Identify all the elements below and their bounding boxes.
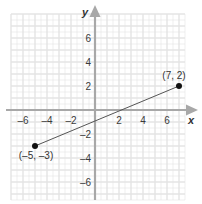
y-tick-label: 2	[85, 81, 91, 92]
x-tick-labels: –6–4–2246	[17, 115, 170, 126]
point-b-label: (7, 2)	[162, 70, 185, 81]
y-tick-label: –6	[80, 177, 92, 188]
x-tick-label: –6	[17, 115, 29, 126]
y-tick-label: –4	[80, 153, 92, 164]
x-axis-label: x	[187, 114, 195, 126]
point-a	[32, 143, 38, 149]
point-a-label: (–5, –3)	[19, 150, 53, 161]
x-tick-label: 6	[164, 115, 170, 126]
x-tick-label: 4	[140, 115, 146, 126]
point-b	[176, 83, 182, 89]
y-axis-arrow-icon	[90, 5, 101, 17]
x-tick-label: –4	[41, 115, 53, 126]
y-tick-label: –2	[80, 129, 92, 140]
grid	[11, 14, 185, 200]
y-tick-label: 6	[85, 33, 91, 44]
y-axis-label: y	[81, 6, 89, 18]
y-tick-label: 4	[85, 57, 91, 68]
x-tick-label: –2	[65, 115, 77, 126]
coordinate-plane: x y –6–4–2246 642–2–4–6 (–5, –3) (7, 2)	[0, 0, 202, 204]
x-tick-label: 2	[116, 115, 122, 126]
